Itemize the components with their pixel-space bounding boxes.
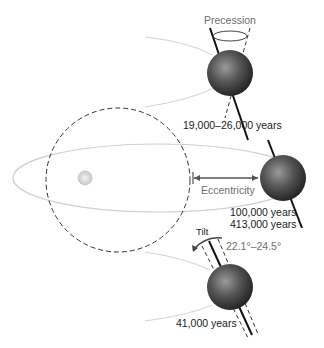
earth-eccentricity <box>260 155 306 201</box>
eccentricity-label: Eccentricity <box>201 184 255 196</box>
milankovitch-diagram: Precession 19,000–26,000 years Eccentric… <box>0 0 324 348</box>
earth-tilt <box>207 264 253 310</box>
precession-ellipse <box>213 31 247 41</box>
diagram-graphics <box>0 0 324 348</box>
circular-orbit <box>46 108 190 252</box>
elliptical-orbit <box>13 144 303 212</box>
precession-period-label: 19,000–26,000 years <box>183 119 282 131</box>
top-orbit-arc <box>145 37 212 55</box>
precession-label: Precession <box>204 14 256 26</box>
tilt-range-label: 22.1°–24.5° <box>226 240 281 252</box>
tilt-label: Tilt <box>196 226 208 238</box>
eccentricity-period-1: 100,000 years <box>230 206 297 218</box>
tilt-period-label: 41,000 years <box>176 317 237 329</box>
earth-precession <box>207 50 253 96</box>
eccentricity-period-2: 413,000 years <box>230 218 297 230</box>
sun-icon <box>78 171 92 185</box>
